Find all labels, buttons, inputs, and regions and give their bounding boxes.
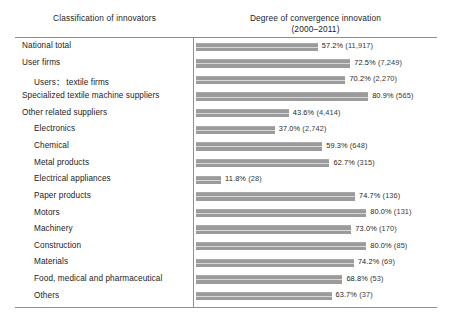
bar-percent: 73.0% bbox=[355, 224, 376, 233]
row-category-label: Specialized textile machine suppliers bbox=[22, 91, 160, 100]
value-bar bbox=[196, 242, 366, 250]
row-category-label: Chemical bbox=[34, 141, 69, 150]
bar-percent: 74.7% bbox=[359, 191, 380, 200]
value-bar bbox=[196, 92, 368, 100]
chart-row: Paper products74.7% (136) bbox=[0, 188, 454, 205]
bar-count: (170) bbox=[379, 224, 397, 233]
value-bar bbox=[196, 126, 275, 134]
chart-row: Chemical59.3% (648) bbox=[0, 138, 454, 155]
chart-row: Others63.7% (37) bbox=[0, 287, 454, 304]
bar-value-label: 70.2% (2,270) bbox=[349, 74, 397, 83]
bar-percent: 70.2% bbox=[349, 74, 370, 83]
value-bar bbox=[196, 76, 345, 84]
bar-value-label: 74.7% (136) bbox=[359, 191, 400, 200]
bottom-rule bbox=[15, 307, 437, 308]
bar-value-label: 80.0% (131) bbox=[370, 207, 411, 216]
value-bar bbox=[196, 176, 221, 184]
chart-row: Specialized textile machine suppliers80.… bbox=[0, 88, 454, 105]
row-category-label: Materials bbox=[34, 257, 68, 266]
value-bar bbox=[196, 142, 322, 150]
row-category-label: Electronics bbox=[34, 124, 75, 133]
row-category-label: Other related suppliers bbox=[22, 108, 107, 117]
bar-percent: 62.7% bbox=[333, 158, 354, 167]
value-bar bbox=[196, 109, 289, 117]
bar-value-label: 80.0% (85) bbox=[370, 241, 407, 250]
bar-value-label: 80.9% (565) bbox=[372, 91, 413, 100]
chart-row: Materials74.2% (69) bbox=[0, 254, 454, 271]
chart-row: Food, medical and pharmaceutical68.8% (5… bbox=[0, 271, 454, 288]
row-category-label: Users： textile firms bbox=[34, 75, 109, 87]
bar-value-label: 62.7% (315) bbox=[333, 158, 374, 167]
bar-percent: 80.9% bbox=[372, 91, 393, 100]
row-category-label: Paper products bbox=[34, 191, 91, 200]
bar-value-label: 43.6% (4,414) bbox=[293, 108, 341, 117]
bar-count: (136) bbox=[383, 191, 401, 200]
chart-row: Other related suppliers43.6% (4,414) bbox=[0, 104, 454, 121]
chart-row: Machinery73.0% (170) bbox=[0, 221, 454, 238]
bar-value-label: 72.5% (7,249) bbox=[354, 58, 402, 67]
value-bar bbox=[196, 259, 354, 267]
row-category-label: Metal products bbox=[34, 158, 89, 167]
bar-percent: 74.2% bbox=[358, 257, 379, 266]
bar-value-label: 68.8% (53) bbox=[346, 274, 383, 283]
convergence-innovation-bar-chart: Classification of innovators Degree of c… bbox=[0, 0, 454, 324]
row-category-label: Food, medical and pharmaceutical bbox=[34, 274, 162, 283]
value-bar bbox=[196, 292, 332, 300]
value-bar bbox=[196, 192, 355, 200]
bar-percent: 43.6% bbox=[293, 108, 314, 117]
bar-value-label: 59.3% (648) bbox=[326, 141, 367, 150]
bar-percent: 11.8% bbox=[225, 174, 246, 183]
right-column-header-subtitle: (2000–2011) bbox=[194, 24, 437, 35]
value-bar bbox=[196, 159, 329, 167]
bar-count: (85) bbox=[394, 241, 408, 250]
bar-percent: 63.7% bbox=[336, 290, 357, 299]
chart-rows: National total57.2% (11,917)User firms72… bbox=[0, 38, 454, 307]
bar-count: (11,917) bbox=[345, 41, 373, 50]
chart-row: Metal products62.7% (315) bbox=[0, 154, 454, 171]
chart-row: Motors80.0% (131) bbox=[0, 204, 454, 221]
bar-count: (69) bbox=[382, 257, 396, 266]
bar-value-label: 37.0% (2,742) bbox=[279, 124, 327, 133]
right-column-header: Degree of convergence innovation (2000–2… bbox=[194, 13, 437, 35]
row-category-label: Machinery bbox=[34, 224, 73, 233]
bar-count: (2,270) bbox=[373, 74, 397, 83]
bar-value-label: 74.2% (69) bbox=[358, 257, 395, 266]
value-bar bbox=[196, 43, 318, 51]
left-column-header: Classification of innovators bbox=[15, 13, 194, 23]
chart-row: Construction80.0% (85) bbox=[0, 237, 454, 254]
bar-value-label: 11.8% (28) bbox=[225, 174, 262, 183]
value-bar bbox=[196, 225, 351, 233]
bar-percent: 59.3% bbox=[326, 141, 347, 150]
right-column-header-title: Degree of convergence innovation bbox=[194, 13, 437, 24]
bar-percent: 80.0% bbox=[370, 241, 391, 250]
bar-percent: 72.5% bbox=[354, 58, 375, 67]
chart-row: National total57.2% (11,917) bbox=[0, 38, 454, 55]
bar-count: (53) bbox=[370, 274, 384, 283]
bar-count: (565) bbox=[396, 91, 414, 100]
bar-percent: 37.0% bbox=[279, 124, 300, 133]
bar-count: (648) bbox=[350, 141, 368, 150]
row-category-label: Construction bbox=[34, 241, 81, 250]
chart-row: User firms72.5% (7,249) bbox=[0, 55, 454, 72]
bar-value-label: 57.2% (11,917) bbox=[322, 41, 373, 50]
column-headers: Classification of innovators Degree of c… bbox=[15, 10, 437, 36]
value-bar bbox=[196, 209, 366, 217]
bar-count: (315) bbox=[357, 158, 375, 167]
bar-count: (37) bbox=[359, 290, 373, 299]
bar-count: (28) bbox=[248, 174, 262, 183]
bar-count: (131) bbox=[394, 207, 412, 216]
row-category-label: National total bbox=[22, 41, 71, 50]
bar-percent: 57.2% bbox=[322, 41, 343, 50]
bar-count: (2,742) bbox=[302, 124, 326, 133]
bar-count: (7,249) bbox=[378, 58, 402, 67]
chart-row: Electronics37.0% (2,742) bbox=[0, 121, 454, 138]
row-category-label: Others bbox=[34, 291, 59, 300]
row-category-label: Motors bbox=[34, 208, 60, 217]
chart-row: Users： textile firms70.2% (2,270) bbox=[0, 71, 454, 88]
bar-count: (4,414) bbox=[316, 108, 340, 117]
value-bar bbox=[196, 275, 342, 283]
row-category-label: Electrical appliances bbox=[34, 174, 111, 183]
row-category-label: User firms bbox=[22, 58, 60, 67]
bar-percent: 80.0% bbox=[370, 207, 391, 216]
chart-row: Electrical appliances11.8% (28) bbox=[0, 171, 454, 188]
